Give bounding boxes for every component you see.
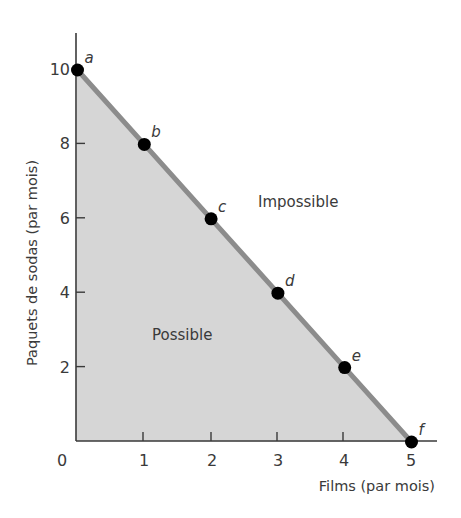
point-label-b: b: [151, 123, 161, 141]
data-point-b: [138, 138, 151, 151]
x-tick-label: 3: [273, 451, 283, 470]
x-tick-label: 2: [207, 451, 217, 470]
y-tick-label: 4: [60, 283, 70, 302]
impossible-label: Impossible: [258, 193, 338, 211]
y-tick-label: 2: [60, 358, 70, 377]
ppf-chart: 012345246810 abcdef Impossible Possible …: [0, 0, 461, 518]
data-point-c: [205, 212, 218, 225]
point-label-c: c: [218, 198, 227, 216]
point-label-e: e: [352, 347, 361, 365]
x-tick-label: 1: [139, 451, 149, 470]
x-tick-label: 0: [57, 451, 67, 470]
x-axis-title: Films (par mois): [319, 478, 435, 494]
point-label-d: d: [285, 272, 295, 290]
y-tick-label: 6: [60, 209, 70, 228]
possible-label: Possible: [152, 326, 212, 344]
point-label-a: a: [85, 49, 94, 67]
data-point-a: [71, 64, 84, 77]
data-point-e: [338, 361, 351, 374]
x-tick-label: 5: [406, 451, 416, 470]
data-point-d: [271, 287, 284, 300]
point-label-f: f: [419, 421, 427, 439]
x-tick-label: 4: [339, 451, 349, 470]
y-tick-label: 10: [50, 60, 70, 79]
y-tick-label: 8: [60, 134, 70, 153]
data-point-f: [405, 436, 418, 449]
y-axis-title: Paquets de sodas (par mois): [24, 160, 40, 366]
